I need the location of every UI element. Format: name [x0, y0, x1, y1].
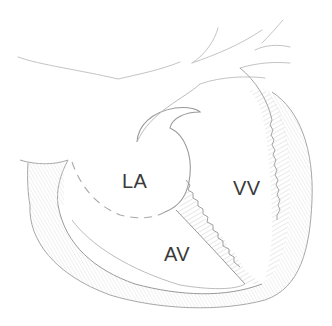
label-av: AV: [164, 244, 190, 264]
heart-diagram: LA VV AV: [0, 0, 332, 326]
label-vv: VV: [233, 178, 261, 198]
great-vessels: [18, 20, 290, 84]
label-left-atrium: LA: [122, 171, 147, 191]
heart-sketch: [0, 0, 332, 326]
left-fold-shade: [29, 163, 64, 205]
left-atrium-dashed-boundary: [72, 162, 165, 218]
